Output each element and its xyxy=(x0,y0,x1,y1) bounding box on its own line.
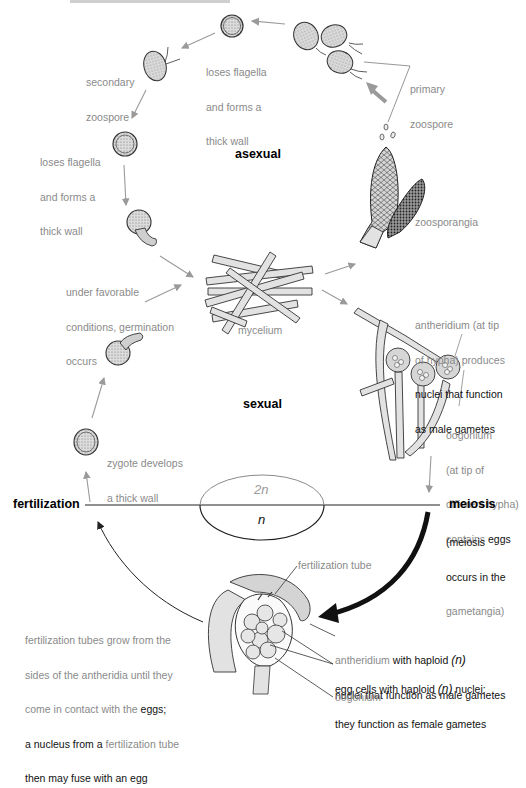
cyst-top-icon xyxy=(221,15,243,37)
label-line: primary xyxy=(410,84,453,96)
label-line: and forms a xyxy=(206,102,267,114)
cropped-title xyxy=(70,0,230,3)
label-line: loses flagella xyxy=(40,157,101,169)
fertilization-description: fertilization tubes grow from the sides … xyxy=(25,612,179,788)
label-line: zygote develops xyxy=(107,458,183,470)
haploid-label: n xyxy=(258,514,265,526)
germinating-cyst-icon xyxy=(127,210,157,246)
meiosis-stage-label: meiosis xyxy=(449,497,496,511)
label-line: loses flagella xyxy=(206,67,267,79)
label-line: then may fuse with an egg xyxy=(25,773,179,785)
fertilization-stage-label: fertilization xyxy=(13,497,80,511)
label-line: sides of the antheridia until they xyxy=(25,670,179,682)
label-text: eggs; xyxy=(141,703,167,715)
oogonium-bottom-label: oogonium xyxy=(335,692,381,704)
arrow-fertilization-to-zygote xyxy=(86,472,90,502)
germination-label: under favorable conditions, germination … xyxy=(66,264,174,379)
label-line: conditions, germination xyxy=(66,322,174,334)
label-line: a thick wall xyxy=(107,493,183,505)
label-line: oogonium xyxy=(446,430,519,442)
label-text: nuclei; xyxy=(452,683,485,695)
arrow-zygote-to-germ xyxy=(92,378,104,418)
secondary-zoospore-icon xyxy=(140,47,180,83)
arrow-to-meiosis xyxy=(429,456,431,492)
zygote-label: zygote develops a thick wall xyxy=(107,435,183,516)
label-line: secondary xyxy=(86,77,134,89)
haploid-symbol: (n) xyxy=(438,682,453,696)
arrow-cyst-to-germinating xyxy=(124,165,126,205)
label-line: (at tip of xyxy=(446,465,519,477)
released-spores-icon xyxy=(380,124,396,140)
label-line: gametangia) xyxy=(446,606,506,618)
secondary-zoospore-label: secondary zoospore xyxy=(86,54,134,135)
loses-flagella-left-label: loses flagella and forms a thick wall xyxy=(40,134,101,249)
label-text: a nucleus from a xyxy=(25,738,106,750)
label-text: fertilization tube xyxy=(106,738,180,750)
mycelium-label: mycelium xyxy=(238,325,282,337)
label-line: they function as female gametes xyxy=(335,719,486,731)
label-line: occurs xyxy=(66,356,174,368)
label-line: zoospore xyxy=(410,119,453,131)
label-line: fertilization tubes grow from the xyxy=(25,635,179,647)
arrow-to-fertilization xyxy=(98,522,203,622)
fertilization-tube-label: fertilization tube xyxy=(298,560,372,572)
mycelium-icon xyxy=(205,252,313,334)
zygote-icon xyxy=(74,429,98,455)
asexual-section-title: asexual xyxy=(235,147,281,161)
zoosporangia-icon xyxy=(360,147,425,248)
loses-flagella-top-label: loses flagella and forms a thick wall xyxy=(206,44,267,159)
label-line: thick wall xyxy=(40,226,101,238)
label-line: nuclei that function xyxy=(415,389,505,401)
zoosporangia-label: zoosporangia xyxy=(415,217,478,229)
arrow-mycelium-to-gametangia xyxy=(322,290,347,304)
label-line: (meiosis xyxy=(446,537,506,549)
diploid-label: 2n xyxy=(254,484,268,496)
label-line: occurs in the xyxy=(446,572,506,584)
release-arrow xyxy=(372,90,386,102)
label-line: of hypha) produces xyxy=(415,355,505,367)
cyst-left-icon xyxy=(113,132,137,156)
arrow-mycelium-to-zoosporangia xyxy=(325,264,355,274)
label-line: under favorable xyxy=(66,287,174,299)
primary-zoospores-icon xyxy=(289,18,367,79)
label-line: and forms a xyxy=(40,192,101,204)
arrow-primary-to-cyst xyxy=(252,21,285,24)
label-line: zoospore xyxy=(86,112,134,124)
meiosis-note: (meiosis occurs in the gametangia) xyxy=(446,514,506,629)
label-line: antheridium (at tip xyxy=(415,320,505,332)
label-line: thick wall xyxy=(206,136,267,148)
sexual-section-title: sexual xyxy=(243,397,282,411)
primary-zoospore-label: primary zoospore xyxy=(410,61,453,142)
fertilization-detail-icon xyxy=(208,575,310,694)
label-text: come in contact with the xyxy=(25,703,141,715)
